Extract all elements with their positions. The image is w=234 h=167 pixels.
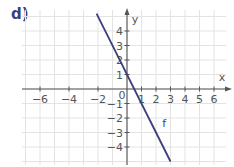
y-axis-arrow-icon — [125, 8, 130, 15]
x-tick-label: 4 — [182, 93, 189, 106]
x-tick-label: 3 — [167, 93, 174, 106]
x-tick-label: −2 — [90, 93, 106, 106]
y-tick-label: −2 — [107, 112, 123, 125]
y-tick-label: −3 — [107, 127, 123, 140]
x-axis-label: x — [219, 71, 226, 84]
x-tick-label: 5 — [196, 93, 203, 106]
x-tick-label: −4 — [61, 93, 77, 106]
x-tick-label: 2 — [153, 93, 160, 106]
y-tick-label: 1 — [116, 69, 123, 82]
y-axis-label: y — [132, 13, 139, 26]
x-axis-arrow-icon — [225, 87, 232, 92]
function-graph: xy−6−4−20123456−4−3−2−11234 f — [0, 0, 234, 167]
grid-lines — [22, 10, 226, 165]
y-tick-label: −4 — [107, 141, 123, 154]
y-tick-label: −1 — [107, 98, 123, 111]
y-tick-label: 4 — [116, 25, 123, 38]
y-tick-label: 3 — [116, 40, 123, 53]
axes — [22, 8, 232, 165]
x-tick-label: −6 — [32, 93, 48, 106]
function-label-f: f — [162, 117, 167, 130]
x-tick-label: 6 — [211, 93, 218, 106]
